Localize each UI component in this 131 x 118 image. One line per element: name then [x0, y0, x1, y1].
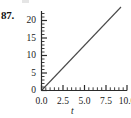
- y-tick-label-0: 0: [12, 86, 36, 96]
- data-series-line: [42, 7, 122, 91]
- x-tick-label-5-0: 5.0: [73, 97, 97, 107]
- y-tick-label-20: 20: [12, 16, 36, 26]
- figure-container: 87.: [0, 0, 131, 118]
- y-tick-label-15: 15: [12, 34, 36, 44]
- x-tick-label-10-0: 10.0: [113, 97, 131, 107]
- y-tick-label-10: 10: [12, 51, 36, 61]
- y-tick-label-5: 5: [12, 69, 36, 79]
- x-tick-label-0: 0.0: [30, 97, 54, 107]
- x-axis-title: t: [71, 107, 74, 117]
